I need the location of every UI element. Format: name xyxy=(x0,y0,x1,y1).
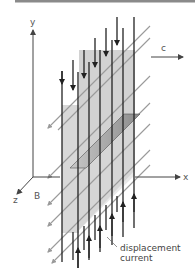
annotation-current: current xyxy=(120,253,153,263)
z-axis xyxy=(17,177,33,194)
b-field-label: B xyxy=(34,191,40,201)
annotation-displacement: displacement xyxy=(120,243,181,253)
propagation-label: c xyxy=(161,43,166,53)
x-axis-label: x xyxy=(183,172,189,182)
diagram-canvas: y x z B c displacement current xyxy=(0,0,195,279)
top-rule xyxy=(15,0,195,3)
y-axis-label: y xyxy=(30,17,36,27)
z-axis-label: z xyxy=(13,195,18,205)
em-wave-figure: y x z B c displacement current xyxy=(0,0,195,279)
